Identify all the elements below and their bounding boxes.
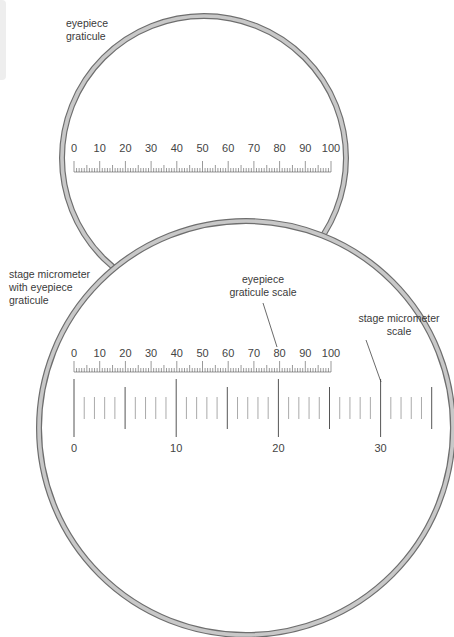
graticule-tick-label: 70 (248, 347, 260, 359)
label-stage-micrometer-with-graticule: stage micrometer with eyepiece graticule (9, 268, 90, 307)
graticule-tick-label: 50 (196, 347, 208, 359)
graticule-tick-label: 90 (299, 142, 311, 154)
graticule-tick-label: 0 (71, 142, 77, 154)
graticule-tick-label: 60 (222, 142, 234, 154)
graticule-tick-label: 80 (273, 347, 285, 359)
stage-tick-label: 0 (71, 442, 77, 454)
label-eyepiece-graticule-scale: eyepiece graticule scale (216, 273, 310, 299)
graticule-tick-label: 20 (119, 347, 131, 359)
graticule-tick-label: 40 (171, 142, 183, 154)
graticule-tick-label: 100 (322, 142, 340, 154)
graticule-tick-label: 70 (248, 142, 260, 154)
graticule-tick-label: 60 (222, 347, 234, 359)
label-eyepiece-graticule: eyepiece graticule (66, 17, 108, 43)
stage-tick-label: 10 (170, 442, 182, 454)
graticule-tick-label: 10 (94, 347, 106, 359)
graticule-tick-label: 80 (273, 142, 285, 154)
graticule-tick-label: 90 (299, 347, 311, 359)
graticule-tick-label: 100 (322, 347, 340, 359)
graticule-tick-label: 50 (196, 142, 208, 154)
graticule-tick-label: 30 (145, 347, 157, 359)
graticule-tick-label: 30 (145, 142, 157, 154)
stage-tick-label: 20 (272, 442, 284, 454)
stage-tick-label: 30 (374, 442, 386, 454)
graticule-tick-label: 10 (94, 142, 106, 154)
graticule-tick-label: 40 (171, 347, 183, 359)
graticule-tick-label: 0 (71, 347, 77, 359)
label-stage-micrometer-scale: stage micrometer scale (344, 312, 454, 338)
graticule-tick-label: 20 (119, 142, 131, 154)
